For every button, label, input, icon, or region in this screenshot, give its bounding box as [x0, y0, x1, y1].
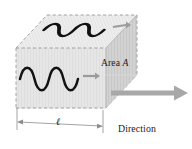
- direction-label-line1: Direction: [118, 123, 166, 134]
- area-label-prefix: Area: [101, 57, 123, 68]
- box-front-face: [16, 48, 106, 108]
- wave-volume-figure: Area A Direction of wave propagation ℓ: [0, 0, 192, 149]
- length-label: ℓ: [56, 116, 60, 127]
- area-label-symbol: A: [123, 57, 129, 68]
- direction-label: Direction of wave propagation: [118, 101, 166, 149]
- area-label: Area A: [101, 58, 129, 69]
